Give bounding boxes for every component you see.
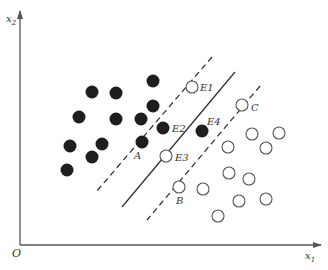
label-e1: E1 xyxy=(199,82,214,93)
open-point xyxy=(212,210,224,222)
open-point xyxy=(246,128,258,140)
y-axis-label: x2 xyxy=(6,13,17,27)
open-point xyxy=(273,127,285,139)
filled-point xyxy=(96,138,109,151)
filled-point xyxy=(64,140,77,153)
open-point xyxy=(222,141,234,153)
open-point xyxy=(260,142,272,154)
filled-point xyxy=(147,100,160,113)
open-point xyxy=(236,99,248,111)
open-point xyxy=(223,167,235,179)
origin-label: O xyxy=(12,247,21,260)
axes: O x2 x1 xyxy=(6,11,321,264)
open-point xyxy=(233,195,245,207)
filled-point xyxy=(110,87,123,100)
filled-point xyxy=(86,86,99,99)
open-point xyxy=(173,181,185,193)
label-b: B xyxy=(175,195,183,206)
filled-point xyxy=(110,113,123,126)
label-e4: E4 xyxy=(206,116,221,127)
label-c: C xyxy=(251,102,259,113)
label-e2: E2 xyxy=(171,123,186,134)
filled-point xyxy=(147,75,160,88)
open-point xyxy=(160,150,172,162)
filled-point xyxy=(86,151,99,164)
filled-point xyxy=(135,113,148,126)
label-a: A xyxy=(133,150,141,161)
label-e3: E3 xyxy=(174,152,189,163)
filled-point xyxy=(157,122,170,135)
open-point xyxy=(243,173,255,185)
open-point xyxy=(260,193,272,205)
filled-point xyxy=(136,136,149,149)
x-axis-label: x1 xyxy=(305,250,315,264)
filled-point xyxy=(61,164,74,177)
open-point xyxy=(197,183,209,195)
svm-diagram: O x2 x1 A B C E1 E2 E3 E4 xyxy=(0,0,328,270)
filled-point xyxy=(73,111,86,124)
open-point xyxy=(186,81,198,93)
